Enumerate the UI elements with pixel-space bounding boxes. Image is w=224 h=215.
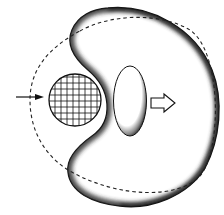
incoming-arrow-icon bbox=[16, 94, 44, 100]
particle-gridded-circle bbox=[49, 74, 101, 126]
nucleus-ellipse bbox=[114, 66, 147, 136]
diagram-canvas bbox=[0, 0, 224, 215]
diagram-svg bbox=[0, 0, 224, 215]
